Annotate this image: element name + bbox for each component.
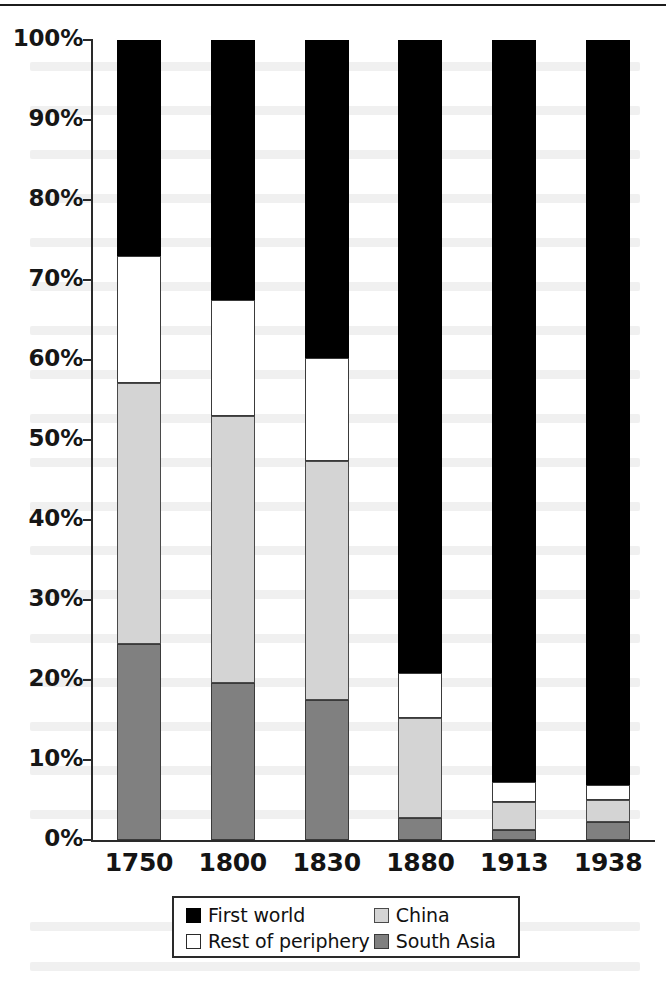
bar-segment-rest-of-periphery[interactable] (117, 256, 161, 383)
white-square-icon (186, 934, 201, 949)
y-axis-tick (83, 39, 92, 41)
y-axis-tick (83, 759, 92, 761)
bar-segment-south-asia[interactable] (586, 822, 630, 840)
bar-segment-rest-of-periphery[interactable] (211, 300, 255, 416)
y-axis-tick-label: 60% (7, 347, 83, 370)
y-axis-tick-label: 80% (7, 187, 83, 210)
y-axis-tick (83, 119, 92, 121)
legend-row: First world China (186, 902, 508, 928)
bar-stack[interactable] (305, 40, 349, 840)
y-axis-tick-label: 100% (7, 27, 83, 50)
bar-segment-first-world[interactable] (305, 40, 349, 358)
bar-segment-first-world[interactable] (586, 40, 630, 785)
y-axis-tick-label: 20% (7, 667, 83, 690)
bar-segment-south-asia[interactable] (305, 700, 349, 840)
bar-segment-rest-of-periphery[interactable] (305, 358, 349, 461)
chart-legend: First world China Rest of periphery Sout… (172, 896, 520, 958)
bar-stack[interactable] (492, 40, 536, 840)
y-axis-tick (83, 359, 92, 361)
bar-segment-rest-of-periphery[interactable] (398, 673, 442, 718)
bar-segment-south-asia[interactable] (211, 683, 255, 840)
legend-label: Rest of periphery (208, 932, 370, 951)
x-axis-tick-label: 1938 (553, 850, 663, 875)
light-gray-square-icon (374, 908, 389, 923)
legend-item-china[interactable]: China (374, 902, 508, 928)
legend-item-south-asia[interactable]: South Asia (374, 928, 508, 954)
legend-row: Rest of periphery South Asia (186, 928, 508, 954)
y-axis-tick (83, 839, 92, 841)
bar-segment-rest-of-periphery[interactable] (492, 782, 536, 802)
y-axis-tick-labels: 0%10%20%30%40%50%60%70%80%90%100% (0, 0, 83, 984)
bar-stack[interactable] (211, 40, 255, 840)
bar-segment-china[interactable] (492, 802, 536, 830)
black-filled-square-icon (186, 908, 201, 923)
bar-segment-south-asia[interactable] (398, 818, 442, 840)
bar-segment-china[interactable] (211, 416, 255, 683)
bar-segment-first-world[interactable] (492, 40, 536, 782)
bar-segment-rest-of-periphery[interactable] (586, 785, 630, 800)
bar-stack[interactable] (398, 40, 442, 840)
bar-segment-first-world[interactable] (398, 40, 442, 673)
y-axis-tick (83, 519, 92, 521)
bar-segment-china[interactable] (586, 800, 630, 822)
y-axis-tick (83, 679, 92, 681)
legend-item-rest-of-periphery[interactable]: Rest of periphery (186, 928, 374, 954)
stacked-bar-chart: 0%10%20%30%40%50%60%70%80%90%100% 175018… (0, 0, 666, 984)
y-axis-tick-label: 40% (7, 507, 83, 530)
y-axis-tick (83, 279, 92, 281)
gray-square-icon (374, 934, 389, 949)
bar-segment-first-world[interactable] (117, 40, 161, 256)
y-axis-tick-label: 30% (7, 587, 83, 610)
y-axis-tick-label: 10% (7, 747, 83, 770)
y-axis-tick-label: 50% (7, 427, 83, 450)
bar-stack[interactable] (117, 40, 161, 840)
bar-segment-china[interactable] (117, 383, 161, 644)
y-axis-tick (83, 439, 92, 441)
y-axis-tick-label: 90% (7, 107, 83, 130)
bar-segment-china[interactable] (398, 718, 442, 818)
y-axis-tick (83, 199, 92, 201)
legend-label: South Asia (396, 932, 496, 951)
y-axis-tick (83, 599, 92, 601)
legend-item-first-world[interactable]: First world (186, 902, 374, 928)
bar-segment-south-asia[interactable] (117, 644, 161, 840)
y-axis-tick-label: 70% (7, 267, 83, 290)
x-axis-line (91, 840, 655, 842)
bar-stack[interactable] (586, 40, 630, 840)
legend-label: China (396, 906, 450, 925)
bar-segment-first-world[interactable] (211, 40, 255, 300)
page-top-rule (0, 4, 666, 6)
bar-segment-south-asia[interactable] (492, 830, 536, 840)
legend-label: First world (208, 906, 305, 925)
y-axis-tick-label: 0% (7, 827, 83, 850)
bar-segment-china[interactable] (305, 461, 349, 700)
